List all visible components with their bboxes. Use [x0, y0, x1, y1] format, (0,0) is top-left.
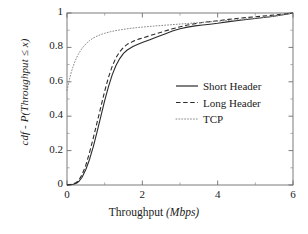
y-tick-label: 0 [36, 177, 63, 189]
x-tick-label: 2 [127, 188, 157, 200]
y-axis-label-wrap: cdf - P(Throughput ≤ x) [14, 0, 30, 185]
y-tick-label: 1 [36, 5, 63, 17]
x-tick-label: 0 [52, 188, 82, 200]
x-axis-label: Throughput (Mbps) [0, 206, 308, 218]
y-tick-label: 0.4 [36, 108, 63, 120]
legend-label: Short Header [203, 80, 262, 92]
y-tick-label: 0.6 [36, 74, 63, 86]
y-tick-label: 0.8 [36, 39, 63, 51]
y-axis-label: cdf - P(Throughput ≤ x) [18, 39, 30, 146]
x-tick-label: 4 [203, 188, 233, 200]
series-line [67, 13, 293, 90]
x-axis-label-main: Throughput [109, 206, 163, 218]
x-tick-label: 6 [278, 188, 308, 200]
legend-label: Long Header [203, 97, 261, 109]
y-tick-label: 0.2 [36, 143, 63, 155]
x-axis-label-unit: (Mbps) [166, 206, 199, 218]
legend-label: TCP [203, 113, 223, 125]
chart-legend: Short HeaderLong HeaderTCP [176, 80, 262, 125]
cdf-throughput-chart: Short HeaderLong HeaderTCP 0246 00.20.40… [0, 0, 308, 234]
